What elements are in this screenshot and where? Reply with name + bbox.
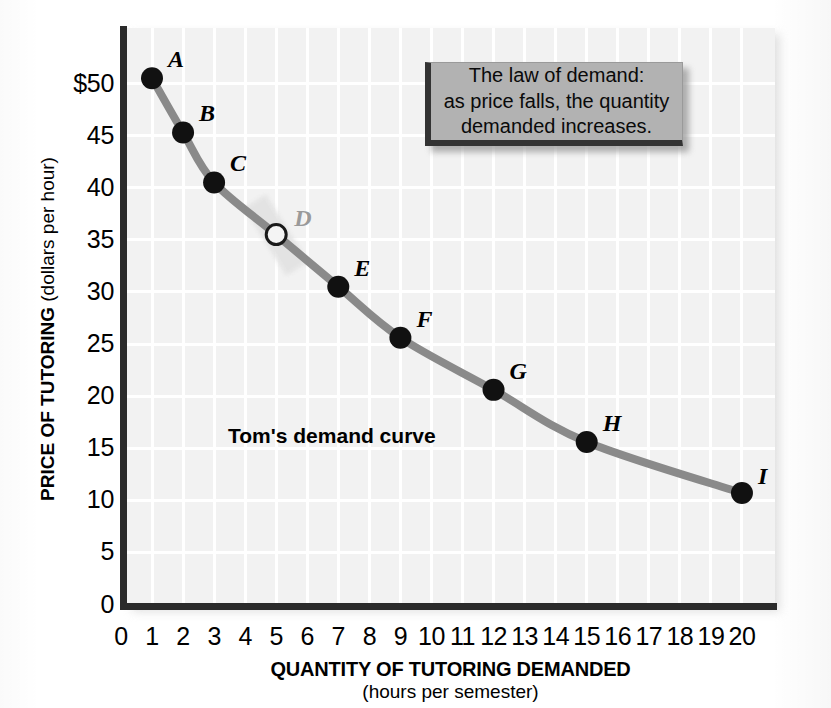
y-tick-label: $50 <box>4 69 114 98</box>
x-tick-label: 20 <box>722 622 762 651</box>
y-tick-label: 40 <box>4 173 114 202</box>
point-label-f: F <box>416 306 432 333</box>
point-label-d: D <box>294 205 311 232</box>
callout-line-1: The law of demand: <box>469 63 645 89</box>
y-tick-label: 25 <box>4 329 114 358</box>
data-point-e[interactable] <box>327 276 349 298</box>
y-tick-label: 10 <box>4 485 114 514</box>
y-tick-label: 15 <box>4 433 114 462</box>
y-tick-label: 0 <box>4 590 114 619</box>
data-point-b[interactable] <box>172 121 194 143</box>
point-label-i: I <box>758 463 767 490</box>
data-point-c[interactable] <box>203 171 225 193</box>
x-axis-subtitle: (hours per semester) <box>126 681 775 703</box>
y-axis-title: PRICE OF TUTORING (dollars per hour) <box>37 49 59 609</box>
data-point-a[interactable] <box>141 67 163 89</box>
point-label-a: A <box>168 46 184 73</box>
point-label-g: G <box>510 358 527 385</box>
x-axis-title: QUANTITY OF TUTORING DEMANDED <box>126 658 775 681</box>
callout-line-3: demanded increases. <box>461 114 652 140</box>
point-label-b: B <box>199 100 215 127</box>
y-tick-label: 45 <box>4 121 114 150</box>
law-of-demand-callout: The law of demand: as price falls, the q… <box>425 62 683 146</box>
y-tick-label: 35 <box>4 225 114 254</box>
data-point-f[interactable] <box>389 327 411 349</box>
y-tick-label: 30 <box>4 277 114 306</box>
y-axis-title-plain: (dollars per hour) <box>37 157 58 307</box>
y-tick-label: 5 <box>4 537 114 566</box>
data-point-i[interactable] <box>731 482 753 504</box>
callout-line-2: as price falls, the quantity <box>444 89 670 115</box>
data-point-d[interactable] <box>266 225 286 245</box>
y-axis-title-bold: PRICE OF TUTORING <box>37 307 58 501</box>
y-tick-label: 20 <box>4 381 114 410</box>
curve-caption: Tom's demand curve <box>228 424 436 448</box>
demand-curve-layer <box>0 0 831 708</box>
demand-curve-figure: ABCDEFGHI $50454035302520151050 01234567… <box>0 0 831 708</box>
point-label-h: H <box>603 410 622 437</box>
point-label-e: E <box>354 255 370 282</box>
point-label-c: C <box>230 150 246 177</box>
data-point-h[interactable] <box>576 431 598 453</box>
data-point-g[interactable] <box>483 379 505 401</box>
